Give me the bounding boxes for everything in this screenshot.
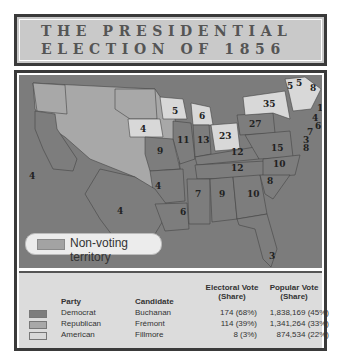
map-frame: 4 4 5 4 6 11 13 23 27 35 5 5 8 13 4 6 7 … <box>14 70 327 351</box>
swatch-american <box>29 332 47 340</box>
header-party: Party <box>61 297 81 306</box>
title-box: THE PRESIDENTIAL ELECTION OF 1856 <box>14 14 327 66</box>
label-ny: 35 <box>263 99 276 109</box>
row-1-electoral: 114 (39%) <box>207 319 257 329</box>
results-table: Party Candidate Electoral Vote (Share) P… <box>19 271 322 348</box>
swatch-republican <box>29 321 47 329</box>
label-ms: 7 <box>195 189 201 199</box>
label-al: 9 <box>219 189 225 199</box>
row-1-party: Republican <box>61 319 101 329</box>
label-pa: 27 <box>249 119 262 129</box>
row-1-candidate: Frémont <box>135 319 165 329</box>
title-line-1: THE PRESIDENTIAL <box>41 23 293 39</box>
label-il: 11 <box>177 135 190 145</box>
label-ar: 4 <box>155 181 161 191</box>
title-line-2: ELECTION OF 1856 <box>41 41 286 57</box>
label-tn: 12 <box>231 163 244 173</box>
non-voting-legend: Non-voting territory <box>25 233 162 255</box>
label-mo: 9 <box>157 146 163 156</box>
header-popular: Popular Vote (Share) <box>259 283 329 301</box>
label-ky: 12 <box>231 147 244 157</box>
label-vt: 5 <box>287 81 293 91</box>
row-2-electoral: 8 (3%) <box>207 330 257 340</box>
state-alabama <box>210 177 237 222</box>
label-sc: 8 <box>267 176 273 186</box>
header-candidate: Candidate <box>135 297 174 306</box>
label-wi: 5 <box>172 106 178 116</box>
header-electoral-sub: (Share) <box>197 292 267 301</box>
label-nc: 10 <box>273 159 286 169</box>
label-md: 8 <box>303 143 309 153</box>
header-electoral-title: Electoral Vote <box>197 283 267 292</box>
label-in: 13 <box>197 135 210 145</box>
us-map: 4 4 5 4 6 11 13 23 27 35 5 5 8 13 4 6 7 … <box>19 75 322 268</box>
row-2-party: American <box>61 330 95 340</box>
label-mi: 6 <box>199 111 205 121</box>
state-oregon <box>33 83 67 114</box>
label-fl: 3 <box>269 251 275 261</box>
row-0-electoral: 174 (68%) <box>207 308 257 318</box>
label-oh: 23 <box>219 131 232 141</box>
state-mississippi <box>187 179 210 224</box>
label-ma: 13 <box>317 103 322 113</box>
row-0-popular: 1,838,169 (45%) <box>257 308 329 318</box>
row-0-candidate: Buchanan <box>135 308 171 318</box>
swatch-democrat <box>29 310 47 318</box>
label-ct: 6 <box>315 121 321 131</box>
label-la: 6 <box>180 207 186 217</box>
row-2-candidate: Fillmore <box>135 330 163 340</box>
non-voting-swatch <box>37 239 65 250</box>
label-ga: 10 <box>247 189 260 199</box>
label-tx: 4 <box>117 206 123 216</box>
label-ca: 4 <box>29 171 35 181</box>
label-ia: 4 <box>140 124 146 134</box>
header-electoral: Electoral Vote (Share) <box>197 283 267 301</box>
label-nh: 5 <box>296 78 302 88</box>
label-va: 15 <box>271 143 284 153</box>
header-popular-title: Popular Vote <box>259 283 329 292</box>
row-1-popular: 1,341,264 (33%) <box>257 319 329 329</box>
row-2-popular: 874,534 (22%) <box>257 330 329 340</box>
non-voting-label: Non-voting territory <box>70 236 161 264</box>
label-me: 8 <box>310 83 316 93</box>
row-0-party: Democrat <box>61 308 96 318</box>
header-popular-sub: (Share) <box>259 292 329 301</box>
